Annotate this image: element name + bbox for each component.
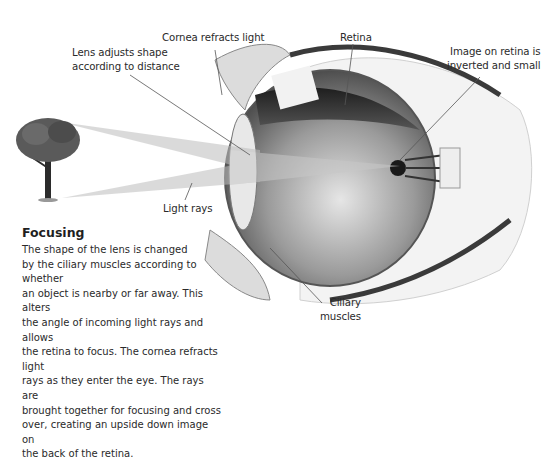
tree-icon bbox=[16, 118, 80, 202]
label-retina: Retina bbox=[340, 31, 372, 45]
caption-focusing: Focusing The shape of the lens is change… bbox=[22, 225, 222, 461]
label-image: Image on retina is inverted and small bbox=[447, 45, 540, 73]
label-light-rays: Light rays bbox=[163, 202, 212, 216]
label-lens: Lens adjusts shape according to distance bbox=[72, 46, 180, 74]
caption-body: The shape of the lens is changed by the … bbox=[22, 243, 222, 461]
label-ciliary: Ciliary muscles bbox=[320, 296, 361, 324]
label-cornea: Cornea refracts light bbox=[162, 31, 264, 45]
caption-title: Focusing bbox=[22, 225, 222, 240]
